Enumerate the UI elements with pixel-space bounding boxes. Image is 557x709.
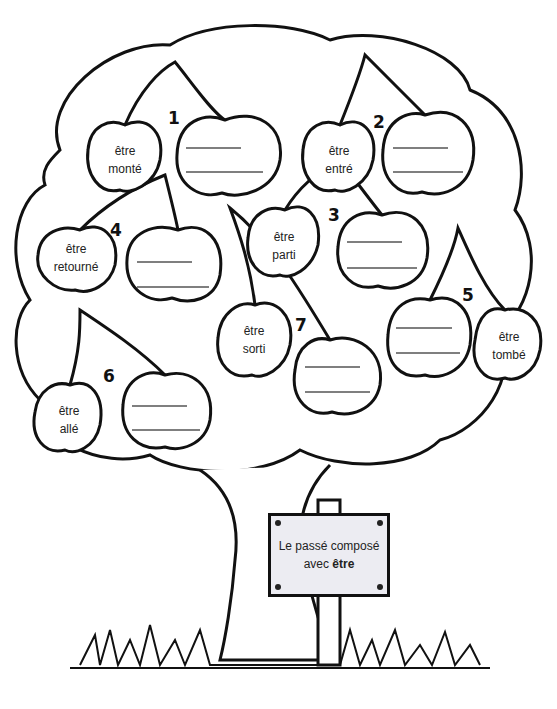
verb-aux: être: [66, 240, 87, 258]
group-number-7: 7: [295, 315, 307, 335]
nail-icon: [377, 520, 383, 526]
cherry-verb-tombe: être tombé: [477, 318, 541, 374]
cherry-verb-parti: être parti: [250, 218, 318, 274]
group-number-3: 3: [328, 205, 340, 225]
sign-prefix: avec: [304, 557, 333, 571]
cherry-verb-retourne: être retourné: [34, 230, 118, 286]
title-sign: Le passé composé avec être: [268, 513, 390, 597]
verb-participle: entré: [325, 160, 352, 178]
verb-participle: allé: [60, 420, 79, 438]
verb-aux: être: [244, 322, 265, 340]
cherry-verb-entre: être entré: [305, 132, 373, 188]
group-number-1: 1: [168, 108, 180, 128]
verb-aux: être: [115, 142, 136, 160]
verb-aux: être: [499, 328, 520, 346]
group-number-2: 2: [373, 112, 385, 132]
nail-icon: [275, 520, 281, 526]
verb-aux: être: [329, 142, 350, 160]
verb-participle: parti: [272, 246, 295, 264]
cherry-verb-sorti: être sorti: [220, 312, 288, 368]
nail-icon: [275, 584, 281, 590]
sign-bold-word: être: [332, 557, 354, 571]
sign-line-1: Le passé composé: [279, 537, 380, 555]
group-number-5: 5: [462, 285, 474, 305]
nail-icon: [377, 584, 383, 590]
cherry-verb-monte: être monté: [90, 132, 160, 188]
cherry-verb-alle: être allé: [38, 392, 100, 448]
verb-aux: être: [274, 228, 295, 246]
verb-participle: monté: [108, 160, 141, 178]
verb-participle: retourné: [54, 258, 99, 276]
verb-participle: sorti: [243, 340, 266, 358]
verb-participle: tombé: [492, 346, 525, 364]
group-number-6: 6: [103, 366, 115, 386]
verb-aux: être: [59, 402, 80, 420]
sign-line-2: avec être: [304, 555, 355, 573]
